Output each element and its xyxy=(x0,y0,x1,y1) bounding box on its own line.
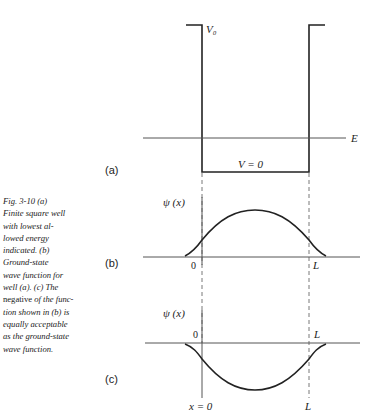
v0-label: V₀ xyxy=(206,23,217,35)
caption-line: indicated. (b) xyxy=(3,244,101,256)
v-zero-label: V = 0 xyxy=(238,158,263,170)
caption-text: of the func- xyxy=(32,294,73,304)
panel-c-origin-label: 0 xyxy=(193,329,198,340)
caption-line: as the ground-state xyxy=(3,330,101,342)
caption-line: Ground-state xyxy=(3,256,101,268)
caption-line: wave function for xyxy=(3,269,101,281)
x-zero-label: x = 0 xyxy=(188,400,213,412)
panel-c-label: (c) xyxy=(105,373,118,385)
caption-line: Fig. 3-10 (a) xyxy=(3,195,101,207)
figure-caption: Fig. 3-10 (a) Finite square well with lo… xyxy=(3,195,101,355)
panel-b-label: (b) xyxy=(105,257,118,269)
negative-ground-state-curve xyxy=(185,344,326,390)
panel-c-L-label: L xyxy=(313,328,320,340)
caption-line: negative of the func- xyxy=(3,293,101,305)
caption-line: Finite square well xyxy=(3,207,101,219)
caption-line: tion shown in (b) is xyxy=(3,306,101,318)
panel-b-L-label: L xyxy=(312,259,319,271)
caption-line: with lowest al- xyxy=(3,220,101,232)
ground-state-curve xyxy=(185,210,326,256)
square-well xyxy=(186,25,325,172)
caption-line: lowed energy xyxy=(3,232,101,244)
panel-c-psi-label: ψ (x) xyxy=(163,307,185,320)
panel-b-origin-label: 0 xyxy=(191,260,196,271)
caption-emphasis: negative xyxy=(3,294,32,304)
panel-b-psi-label: ψ (x) xyxy=(163,196,185,209)
caption-line: well (a). (c) The xyxy=(3,281,101,293)
caption-line: equally acceptable xyxy=(3,318,101,330)
energy-label: E xyxy=(350,132,358,144)
panel-a-label: (a) xyxy=(105,164,118,176)
x-L-label: L xyxy=(304,400,311,412)
caption-line: wave function. xyxy=(3,343,101,355)
